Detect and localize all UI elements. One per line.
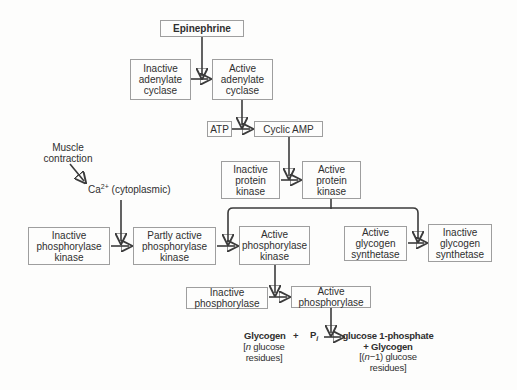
substrate-note-after: glucose [251,341,285,352]
pathway-diagram: Epinephrine Inactive adenylate cyclase A… [0,0,517,390]
node-cyclic-amp: Cyclic AMP [254,121,323,137]
reaction-substrate: Glycogen [244,331,286,342]
node-active-glycogen-synthetase: Active glycogen synthetase [344,226,407,261]
node-active-phosphorylase: Active phosphorylase [291,286,371,308]
node-active-protein-kinase: Active protein kinase [302,161,361,199]
calcium-rest: (cytoplasmic) [109,184,171,195]
product-note-line1: [(n−1) glucose [342,352,434,363]
node-active-phosphorylase-kinase: Active phosphorylase kinase [239,226,310,265]
node-inactive-adenylate-cyclase: Inactive adenylate cyclase [130,59,191,100]
product-note-after: −1) glucose [370,351,417,362]
phosphate-subscript: i [316,335,318,342]
calcium-label: Ca2+ (cytoplasmic) [88,184,170,195]
node-atp: ATP [207,121,232,137]
reaction-phosphate: Pi [310,330,318,341]
muscle-contraction-label: Muscle contraction [36,142,100,164]
node-partly-active-phosphorylase-kinase: Partly active phosphorylase kinase [133,227,216,265]
substrate-note-line1: [n glucose [234,342,294,353]
node-inactive-glycogen-synthetase: Inactive glycogen synthetase [428,224,492,262]
reaction-substrate-note: [n glucose residues] [234,342,294,363]
product-note-line2: residues] [342,363,434,374]
product-line1: glucose 1-phosphate [342,331,434,342]
reaction-plus: + [293,331,298,342]
calcium-base: Ca [88,184,101,195]
node-active-adenylate-cyclase: Active adenylate cyclase [212,59,273,100]
node-epinephrine: Epinephrine [160,20,244,37]
node-inactive-phosphorylase-kinase: Inactive phosphorylase kinase [28,227,110,265]
node-inactive-protein-kinase: Inactive protein kinase [221,161,280,199]
reaction-products: glucose 1-phosphate + Glycogen [(n−1) gl… [342,331,434,373]
substrate-note-line2: residues] [234,353,294,364]
node-inactive-phosphorylase: Inactive phosphorylase [186,287,268,309]
arrow-muscle-to-calcium [70,164,84,181]
calcium-superscript: 2+ [101,183,109,190]
